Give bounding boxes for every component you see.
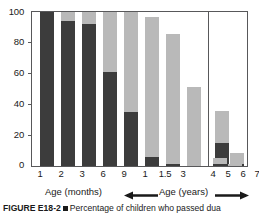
bar-segment-dark: [166, 164, 180, 166]
arrow-right-icon: [215, 191, 249, 200]
caption-square-icon: [63, 206, 68, 211]
x-tick-label-5-years: 5: [220, 168, 236, 179]
bar-segment-light: [215, 111, 229, 143]
bar-group: [32, 12, 247, 166]
bar-1-month: [40, 12, 54, 166]
y-tick-label: 40: [0, 99, 24, 108]
arrow-left-icon: [124, 191, 158, 200]
bar-segment-light: [103, 12, 117, 72]
bar-5-years: [230, 153, 244, 166]
bar-4-years: [215, 111, 229, 166]
bar-segment-light: [187, 87, 201, 166]
bar-2-months: [61, 12, 75, 166]
bar-1-5-years: [166, 34, 180, 166]
y-tick-label: 20: [0, 130, 24, 139]
bar-1-year: [145, 17, 159, 166]
group-divider: [208, 12, 209, 166]
x-tick-label-1-month: 1: [32, 168, 48, 179]
figure-number: FIGURE E18-2: [3, 203, 61, 213]
bar-segment-dark: [40, 12, 54, 166]
x-tick-label-1-year: 1: [137, 168, 153, 179]
bar-segment-light: [61, 12, 75, 21]
axis-label-years: Age (years): [159, 185, 208, 198]
bar-segment-dark: [230, 164, 244, 166]
bar-3-years: [187, 87, 201, 166]
plot-area: [31, 11, 248, 167]
x-tick-label-2-months: 2: [53, 168, 69, 179]
x-tick-label-9-months: 9: [116, 168, 132, 179]
figure-container: 100 80 60 40 20 0: [0, 0, 259, 213]
bar-segment-light: [145, 17, 159, 157]
bar-segment-dark: [103, 72, 117, 166]
bar-segment-dark: [61, 21, 75, 166]
x-tick-label-3-years: 3: [175, 168, 191, 179]
bar-6-months: [103, 12, 117, 166]
bar-segment-light: [124, 12, 138, 112]
x-tick-label-3-months: 3: [74, 168, 90, 179]
x-tick-label-7-years: 7: [249, 168, 259, 179]
figure-caption-text: Percentage of children who passed dua: [70, 203, 221, 213]
y-tick-label: 100: [0, 7, 24, 16]
bar-segment-dark: [215, 143, 229, 166]
bar-segment-light: [82, 12, 96, 24]
axis-caption-row: Age (months) Age (years): [0, 185, 259, 200]
y-tick-label: 60: [0, 68, 24, 77]
bar-3-months: [82, 12, 96, 166]
x-tick-label-1-5-years: 1.5: [155, 168, 175, 179]
x-axis-labels: 1 2 3 6 9 1 1.5 3 4 5 6 7: [0, 168, 259, 181]
bar-segment-dark: [82, 24, 96, 166]
bar-segment-dark: [124, 112, 138, 166]
bar-segment-light: [166, 34, 180, 164]
bar-9-months: [124, 12, 138, 166]
bar-segment-dark: [145, 157, 159, 166]
bar-segment-light: [230, 153, 244, 164]
axis-label-months: Age (months): [45, 185, 102, 198]
x-tick-label-4-years: 4: [205, 168, 221, 179]
figure-caption: FIGURE E18-2Percentage of children who p…: [3, 203, 259, 213]
x-tick-label-6-months: 6: [95, 168, 111, 179]
y-axis: 100 80 60 40 20 0: [0, 0, 31, 168]
y-tick-label: 80: [0, 37, 24, 46]
